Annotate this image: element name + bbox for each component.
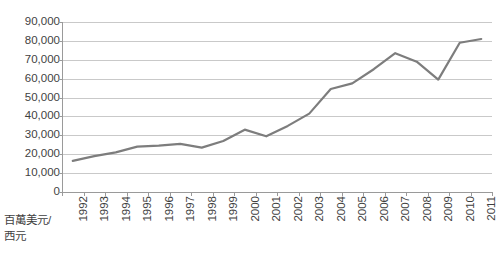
x-axis-tick-label: 2000	[250, 196, 262, 222]
x-axis-tick-label: 2005	[357, 196, 369, 222]
y-axis-tick-label: 20,000	[2, 148, 60, 160]
x-axis-tick-label: 1999	[228, 196, 240, 222]
axis-title-line-2: 西元	[4, 228, 66, 244]
x-axis-tick-label: 2001	[271, 196, 283, 222]
y-axis-tick-label: 10,000	[2, 167, 60, 179]
y-axis-tick-label: 30,000	[2, 129, 60, 141]
x-axis-tick-label: 1997	[185, 196, 197, 222]
y-axis-tick-label: 90,000	[2, 16, 60, 28]
y-axis-tick-label: 80,000	[2, 35, 60, 47]
x-axis-tick-label: 1992	[78, 196, 90, 222]
x-axis-tick-label: 2003	[314, 196, 326, 222]
y-axis-tick-label: 40,000	[2, 110, 60, 122]
series-line	[73, 39, 482, 161]
y-axis-tick-label: 0	[2, 186, 60, 198]
y-axis-tick-label: 50,000	[2, 92, 60, 104]
axis-title: 百萬美元/ 西元	[4, 212, 66, 244]
y-axis-tick-label: 60,000	[2, 73, 60, 85]
x-axis-tick-label: 2007	[400, 196, 412, 222]
x-axis-tick-label: 1996	[164, 196, 176, 222]
series-line-layer	[62, 22, 492, 192]
plot-area	[62, 22, 492, 192]
x-axis-tick-label: 2011	[486, 196, 497, 221]
x-axis-tick-label: 1998	[207, 196, 219, 222]
x-axis-tick-label: 2002	[293, 196, 305, 222]
x-axis-tick-label: 1995	[142, 196, 154, 222]
axis-title-line-1: 百萬美元/	[4, 212, 66, 228]
x-axis-tick-label: 1994	[121, 196, 133, 222]
line-chart: 010,00020,00030,00040,00050,00060,00070,…	[0, 0, 497, 272]
x-axis-tick-label: 2004	[336, 196, 348, 222]
x-axis-tick-label: 2010	[465, 196, 477, 222]
x-axis-tick-label: 2008	[422, 196, 434, 222]
x-axis-tick-label: 2009	[443, 196, 455, 222]
x-axis-labels: 1992199319941995199619971998199920002001…	[62, 196, 492, 266]
x-axis-tick-label: 1993	[99, 196, 111, 222]
y-axis-tick-label: 70,000	[2, 54, 60, 66]
x-axis-tick-label: 2006	[379, 196, 391, 222]
